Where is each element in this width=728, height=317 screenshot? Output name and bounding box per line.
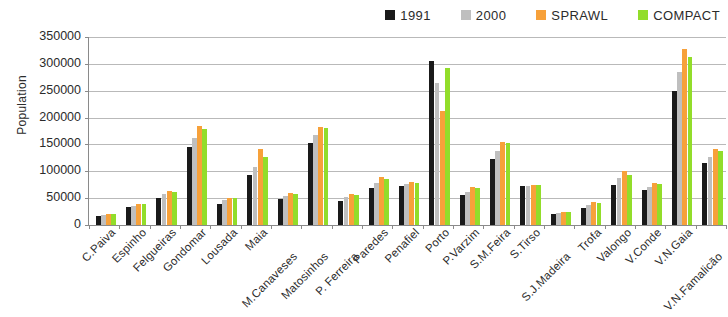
bar-sprawl bbox=[136, 204, 141, 225]
bar-compact bbox=[142, 204, 147, 225]
legend-item-compact[interactable]: COMPACT bbox=[638, 8, 720, 23]
bar-2000 bbox=[313, 135, 318, 225]
legend-swatch-icon bbox=[536, 10, 546, 20]
x-axis-label: S.Tirso bbox=[507, 226, 542, 261]
legend-label: 2000 bbox=[476, 8, 507, 23]
bar-group bbox=[338, 37, 359, 225]
bar-1991 bbox=[702, 163, 707, 225]
bar-compact bbox=[202, 129, 207, 225]
legend-item-1991[interactable]: 1991 bbox=[385, 8, 431, 23]
bar-sprawl bbox=[470, 187, 475, 225]
bar-compact bbox=[324, 128, 329, 225]
bar-1991 bbox=[96, 216, 101, 225]
bar-sprawl bbox=[713, 149, 718, 225]
bar-sprawl bbox=[349, 194, 354, 225]
bar-2000 bbox=[465, 192, 470, 225]
bar-2000 bbox=[586, 205, 591, 225]
bar-1991 bbox=[520, 186, 525, 225]
bar-compact bbox=[536, 185, 541, 225]
bar-1991 bbox=[308, 143, 313, 225]
bar-compact bbox=[415, 183, 420, 225]
bar-sprawl bbox=[500, 142, 505, 225]
bar-2000 bbox=[131, 206, 136, 225]
bar-compact bbox=[354, 195, 359, 225]
bar-sprawl bbox=[591, 202, 596, 225]
bar-1991 bbox=[156, 198, 161, 225]
bar-group bbox=[247, 37, 268, 225]
bar-1991 bbox=[429, 61, 434, 225]
bar-compact bbox=[263, 157, 268, 225]
x-axis-label: Trofa bbox=[575, 226, 603, 254]
legend-swatch-icon bbox=[385, 10, 395, 20]
bar-2000 bbox=[495, 151, 500, 225]
bar-sprawl bbox=[227, 198, 232, 225]
bar-group bbox=[187, 37, 208, 225]
bar-1991 bbox=[187, 147, 192, 225]
bar-compact bbox=[445, 68, 450, 225]
bar-compact bbox=[688, 57, 693, 225]
bar-2000 bbox=[526, 186, 531, 225]
legend-swatch-icon bbox=[461, 10, 471, 20]
bar-2000 bbox=[404, 184, 409, 225]
bar-sprawl bbox=[197, 126, 202, 225]
bar-group bbox=[429, 37, 450, 225]
bar-sprawl bbox=[167, 191, 172, 225]
bar-compact bbox=[233, 198, 238, 225]
bar-compact bbox=[718, 151, 723, 225]
bar-compact bbox=[566, 212, 571, 225]
legend-label: COMPACT bbox=[653, 8, 720, 23]
bar-group bbox=[672, 37, 693, 225]
bar-1991 bbox=[247, 175, 252, 225]
legend-item-sprawl[interactable]: SPRAWL bbox=[536, 8, 608, 23]
bar-2000 bbox=[344, 197, 349, 225]
bar-1991 bbox=[581, 208, 586, 225]
bar-2000 bbox=[162, 194, 167, 225]
bar-group bbox=[278, 37, 299, 225]
bar-compact bbox=[384, 179, 389, 225]
x-axis-label: V.N.Famalicão bbox=[661, 250, 724, 313]
bar-group bbox=[520, 37, 541, 225]
bar-1991 bbox=[611, 185, 616, 225]
bar-2000 bbox=[677, 72, 682, 225]
bar-compact bbox=[475, 188, 480, 225]
legend-item-2000[interactable]: 2000 bbox=[461, 8, 507, 23]
bar-1991 bbox=[672, 91, 677, 225]
x-axis-label: Maia bbox=[243, 226, 270, 253]
bar-group bbox=[217, 37, 238, 225]
bar-compact bbox=[172, 192, 177, 225]
bar-compact bbox=[111, 214, 116, 225]
bar-2000 bbox=[283, 196, 288, 225]
bar-sprawl bbox=[682, 49, 687, 225]
bar-sprawl bbox=[258, 149, 263, 225]
bar-1991 bbox=[490, 159, 495, 225]
y-tick-label: 200000 bbox=[1, 110, 81, 124]
bar-1991 bbox=[460, 195, 465, 225]
bar-1991 bbox=[399, 186, 404, 225]
y-tick-label: 50000 bbox=[1, 190, 81, 204]
legend-label: 1991 bbox=[400, 8, 431, 23]
bar-compact bbox=[657, 184, 662, 225]
bar-group bbox=[611, 37, 632, 225]
x-axis-label: Paredes bbox=[351, 226, 391, 266]
bar-2000 bbox=[222, 200, 227, 225]
bar-1991 bbox=[642, 190, 647, 225]
x-tick-mark bbox=[726, 225, 727, 229]
bar-compact bbox=[597, 203, 602, 225]
y-tick-label: 150000 bbox=[1, 136, 81, 150]
bar-sprawl bbox=[409, 182, 414, 226]
bar-sprawl bbox=[622, 171, 627, 225]
bar-2000 bbox=[101, 215, 106, 225]
bar-compact bbox=[293, 194, 298, 225]
bar-2000 bbox=[647, 187, 652, 225]
bar-2000 bbox=[374, 183, 379, 225]
bar-sprawl bbox=[106, 214, 111, 225]
bar-group bbox=[96, 37, 117, 225]
bar-2000 bbox=[617, 178, 622, 225]
bar-group bbox=[308, 37, 329, 225]
bar-group bbox=[702, 37, 723, 225]
bar-2000 bbox=[253, 167, 258, 225]
bar-group bbox=[551, 37, 572, 225]
bar-1991 bbox=[551, 214, 556, 225]
bar-1991 bbox=[126, 207, 131, 225]
y-tick-label: 350000 bbox=[1, 29, 81, 43]
